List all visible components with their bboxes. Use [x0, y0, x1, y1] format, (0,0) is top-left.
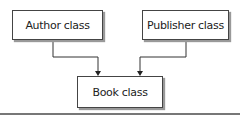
edge-publisher-to-book — [140, 40, 186, 71]
node-label: Book class — [92, 86, 147, 99]
node-book-class: Book class — [77, 76, 163, 108]
node-author-class: Author class — [12, 10, 103, 40]
node-label: Publisher class — [147, 19, 224, 32]
node-publisher-class: Publisher class — [142, 10, 229, 40]
bottom-divider — [0, 113, 240, 115]
edge-author-to-book — [53, 40, 98, 71]
node-label: Author class — [25, 19, 89, 32]
